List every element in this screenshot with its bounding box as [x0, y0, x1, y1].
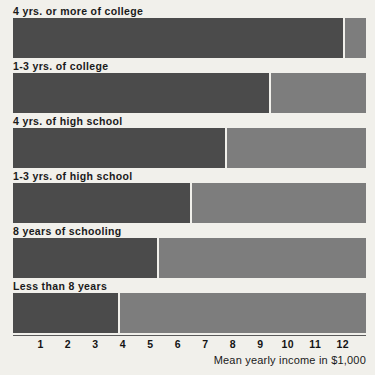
x-tick-label-2: 2 — [65, 338, 71, 350]
bar-track-4 — [13, 238, 366, 278]
bar-group-2: 4 yrs. of high school — [13, 115, 366, 168]
bar-track-5 — [13, 293, 366, 333]
bar-group-3: 1-3 yrs. of high school — [13, 170, 366, 223]
bar-category-label-1: 1-3 yrs. of college — [13, 60, 366, 73]
income-by-education-bar-chart: 4 yrs. or more of college 1-3 yrs. of co… — [0, 0, 375, 375]
bar-category-label-0: 4 yrs. or more of college — [13, 5, 366, 18]
x-tick-label-5: 5 — [147, 338, 153, 350]
x-axis: 123456789101112 — [13, 335, 366, 353]
bar-group-5: Less than 8 years — [13, 280, 366, 333]
bar-group-0: 4 yrs. or more of college — [13, 5, 366, 58]
plot-area: 4 yrs. or more of college 1-3 yrs. of co… — [13, 5, 366, 335]
x-tick-label-10: 10 — [282, 338, 294, 350]
bar-category-label-2: 4 yrs. of high school — [13, 115, 366, 128]
bar-track-0 — [13, 18, 366, 58]
bar-category-label-4: 8 years of schooling — [13, 225, 366, 238]
x-tick-label-4: 4 — [120, 338, 126, 350]
bar-category-label-5: Less than 8 years — [13, 280, 366, 293]
bar-category-label-3: 1-3 yrs. of high school — [13, 170, 366, 183]
x-axis-line — [13, 335, 366, 336]
x-tick-label-12: 12 — [337, 338, 349, 350]
bar-fill-2 — [13, 128, 227, 168]
x-tick-label-6: 6 — [175, 338, 181, 350]
bar-group-1: 1-3 yrs. of college — [13, 60, 366, 113]
bar-fill-3 — [13, 183, 192, 223]
x-axis-caption: Mean yearly income in $1,000 — [214, 354, 366, 366]
x-tick-label-7: 7 — [202, 338, 208, 350]
bar-track-2 — [13, 128, 366, 168]
x-tick-label-11: 11 — [309, 338, 321, 350]
x-tick-label-1: 1 — [37, 338, 43, 350]
bar-fill-0 — [13, 18, 345, 58]
x-tick-label-3: 3 — [92, 338, 98, 350]
x-tick-label-8: 8 — [230, 338, 236, 350]
bar-group-4: 8 years of schooling — [13, 225, 366, 278]
bar-fill-1 — [13, 73, 271, 113]
bar-track-1 — [13, 73, 366, 113]
bar-fill-4 — [13, 238, 159, 278]
bar-fill-5 — [13, 293, 120, 333]
bar-track-3 — [13, 183, 366, 223]
x-tick-label-9: 9 — [257, 338, 263, 350]
